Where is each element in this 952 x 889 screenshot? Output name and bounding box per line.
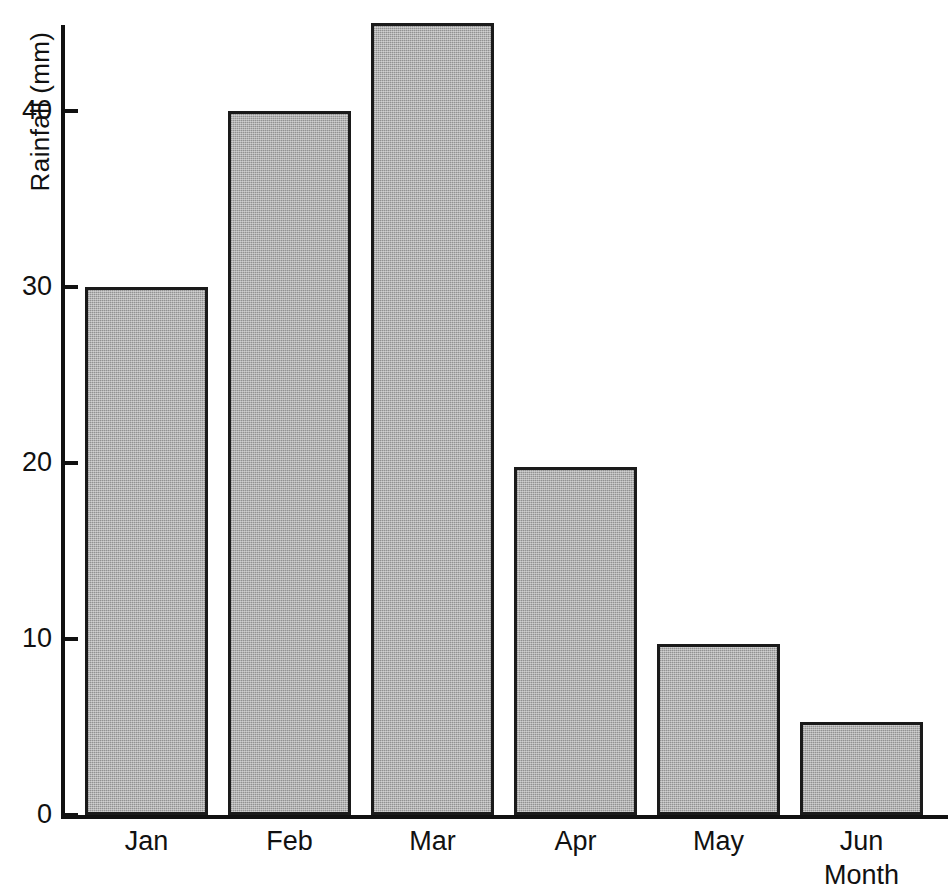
bar-apr[interactable] — [514, 467, 637, 815]
x-axis-line — [61, 815, 948, 819]
y-tick-10 — [61, 637, 78, 641]
bar-mar[interactable] — [371, 23, 494, 815]
y-tick-30 — [61, 285, 78, 289]
y-tick-20 — [61, 461, 78, 465]
x-axis-title: Month — [792, 862, 932, 889]
x-tick-label-apr: Apr — [506, 828, 646, 855]
bar-jan[interactable] — [85, 287, 208, 815]
y-tick-40 — [61, 109, 78, 113]
y-tick-label-30: 30 — [22, 273, 52, 300]
x-tick-label-jan: Jan — [77, 828, 217, 855]
x-tick-label-mar: Mar — [363, 828, 503, 855]
bar-chart: Rainfall (mm) 40 30 20 10 0 JanFebMarApr… — [0, 0, 952, 889]
bar-feb[interactable] — [228, 111, 351, 815]
y-tick-label-10: 10 — [22, 625, 52, 652]
y-tick-label-40: 40 — [22, 97, 52, 124]
y-tick-label-0: 0 — [37, 801, 52, 828]
bar-may[interactable] — [657, 644, 780, 815]
plot-area — [61, 0, 948, 815]
y-tick-label-20: 20 — [22, 449, 52, 476]
y-tick-0 — [61, 813, 78, 817]
x-tick-label-feb: Feb — [220, 828, 360, 855]
x-tick-label-jun: Jun — [792, 828, 932, 855]
x-tick-label-may: May — [649, 828, 789, 855]
bar-jun[interactable] — [800, 722, 923, 815]
